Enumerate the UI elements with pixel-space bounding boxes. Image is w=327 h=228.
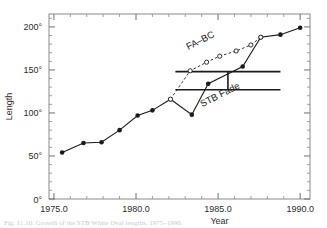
fa-bc-label: FA–BC <box>184 28 216 52</box>
data-point <box>218 54 222 58</box>
x-tick-label: 1975.0 <box>40 204 68 214</box>
data-point <box>240 64 245 69</box>
data-point <box>204 60 208 64</box>
data-point <box>234 49 238 53</box>
length-vs-year-line-chart: 1975.01980.01985.01990.00°50°100°150°200… <box>0 0 327 228</box>
data-point <box>298 25 303 30</box>
y-tick-label: 150° <box>23 65 42 75</box>
y-tick-label: 0° <box>33 195 42 205</box>
data-point <box>99 140 104 145</box>
data-point <box>60 150 65 155</box>
data-point <box>117 128 122 133</box>
plot-frame <box>49 14 310 199</box>
minor-tick-marks <box>49 14 310 199</box>
figure-container: 1975.01980.01985.01990.00°50°100°150°200… <box>0 0 327 228</box>
x-tick-label: 1990.0 <box>286 204 314 214</box>
data-point <box>190 112 195 117</box>
data-point <box>81 141 86 146</box>
data-point <box>206 81 211 86</box>
stb-fade-label: STB Fade <box>198 80 241 109</box>
major-tick-marks <box>49 14 310 199</box>
x-tick-label: 1980.0 <box>122 204 150 214</box>
data-point <box>259 35 263 39</box>
data-point <box>168 97 172 101</box>
y-axis-title: Length <box>4 93 14 121</box>
x-tick-label: 1985.0 <box>204 204 232 214</box>
y-tick-label: 100° <box>23 108 42 118</box>
data-point <box>249 43 253 47</box>
data-point <box>150 108 155 113</box>
plot-border <box>49 14 310 199</box>
y-tick-label: 200° <box>23 22 42 32</box>
y-tick-label: 50° <box>28 151 42 161</box>
inline-annotations-group: FA–BCSTB Fade <box>184 28 241 109</box>
tick-labels-group: 1975.01980.01985.01990.00°50°100°150°200… <box>23 22 314 214</box>
data-point <box>278 32 283 37</box>
data-point <box>188 69 192 73</box>
data-point <box>135 113 140 118</box>
figure-caption: Fig. 11.10. Growth of the STB White Oval… <box>4 219 324 228</box>
